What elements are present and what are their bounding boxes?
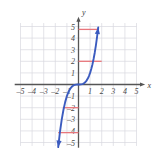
x-tick-label: 2 (100, 87, 104, 96)
y-tick-label: –5 (66, 139, 75, 148)
graph-figure: –5–4–3–2–112345–5–4–3–2–112345 xy (0, 0, 165, 157)
y-tick-label: 3 (70, 46, 75, 55)
y-tick-label: 2 (71, 57, 75, 66)
x-tick-label: 4 (123, 87, 127, 96)
axis-names: xy (81, 8, 152, 90)
y-tick-label: 5 (71, 23, 75, 32)
y-axis-arrowhead (76, 17, 80, 22)
x-tick-label: –2 (50, 87, 59, 96)
y-axis-label: y (81, 8, 86, 17)
x-tick-label: –5 (16, 87, 25, 96)
x-tick-label: –3 (39, 87, 48, 96)
x-tick-label: 3 (110, 87, 115, 96)
coordinate-plane: –5–4–3–2–112345–5–4–3–2–112345 xy (0, 0, 165, 157)
x-tick-label: 5 (135, 87, 139, 96)
x-axis-arrowhead (140, 82, 145, 86)
y-tick-label: –3 (66, 115, 75, 124)
y-tick-label: 1 (71, 69, 75, 78)
axes (15, 17, 146, 148)
y-tick-label: –4 (66, 127, 75, 136)
x-tick-label: –4 (27, 87, 36, 96)
x-axis-label: x (147, 81, 152, 90)
x-tick-label: 1 (88, 87, 92, 96)
y-tick-label: 4 (71, 34, 75, 43)
